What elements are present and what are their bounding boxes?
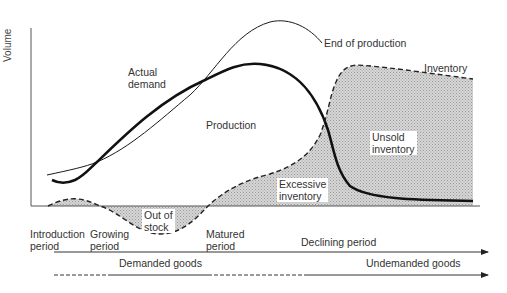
actual-demand-label-line2: demand <box>128 78 166 90</box>
y-axis-label: Volume <box>2 29 13 62</box>
matured-period-line2: period <box>206 240 245 252</box>
excessive-inventory-label: Excessive inventory <box>277 178 328 202</box>
unsold-inventory-label-line2: inventory <box>372 143 415 155</box>
unsold-inventory-label: Unsold inventory <box>370 131 417 155</box>
inventory-label: Inventory <box>424 62 467 74</box>
introduction-period-line1: Introduction <box>30 228 85 240</box>
growing-period-label: Growing period <box>90 228 129 252</box>
undemanded-goods-label: Undemanded goods <box>366 257 461 269</box>
out-of-stock-label: Out of stock <box>142 209 175 233</box>
out-of-stock-label-line1: Out of <box>144 209 173 221</box>
actual-demand-label-line1: Actual <box>128 66 166 78</box>
end-of-production-label: End of production <box>324 37 406 49</box>
declining-period-label: Declining period <box>301 236 376 248</box>
growing-period-line1: Growing <box>90 228 129 240</box>
introduction-period-line2: period <box>30 240 85 252</box>
growing-period-line2: period <box>90 240 129 252</box>
production-label: Production <box>206 119 256 131</box>
excessive-inventory-label-line1: Excessive <box>279 178 326 190</box>
unsold-inventory-region <box>208 65 473 206</box>
excessive-inventory-label-line2: inventory <box>279 190 326 202</box>
production-curve <box>47 21 322 175</box>
out-of-stock-label-line2: stock <box>144 221 173 233</box>
actual-demand-label: Actual demand <box>128 66 166 90</box>
introduction-period-label: Introduction period <box>30 228 85 252</box>
unsold-inventory-label-line1: Unsold <box>372 131 415 143</box>
matured-period-label: Matured period <box>206 228 245 252</box>
demanded-goods-label: Demanded goods <box>119 257 202 269</box>
matured-period-line1: Matured <box>206 228 245 240</box>
